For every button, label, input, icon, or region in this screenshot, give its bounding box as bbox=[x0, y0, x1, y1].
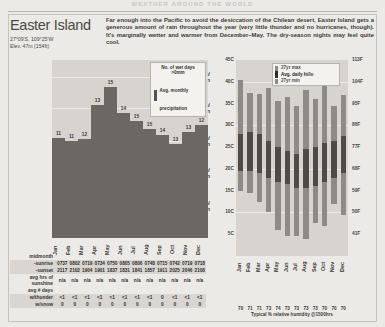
temp-column bbox=[285, 60, 290, 256]
humidity-value: 73 bbox=[292, 306, 301, 311]
wet-days-label: 12 bbox=[195, 118, 208, 123]
wet-days-label: 11 bbox=[65, 134, 78, 139]
sunrise-values: 0737080207190734075008050806074807150742… bbox=[56, 261, 206, 266]
sunrise-value: 0715 bbox=[156, 261, 169, 266]
precip-bar: 15 bbox=[143, 129, 156, 238]
precip-bar: 12 bbox=[78, 139, 91, 238]
temp-ytick-f-41: 41F bbox=[352, 231, 376, 236]
snow-value: 0 bbox=[169, 302, 182, 307]
precip-swatch-icon bbox=[154, 90, 157, 101]
temp-ytick-c-35: 35C bbox=[210, 101, 234, 106]
thunder-row: w/thunder <1<1<1<1<1<1<1<10<1<1<1 bbox=[10, 294, 206, 301]
location-elevation: Elev. 47m (154ft) bbox=[10, 43, 102, 50]
temp-avg-range-bar bbox=[238, 134, 243, 171]
temp-avg-range-bar bbox=[257, 134, 262, 173]
legend-avg-label: Avg. daily hi/lo bbox=[281, 72, 313, 78]
temp-ytick-f-113: 113F bbox=[352, 57, 376, 62]
sunshine-label-line2: sunshine bbox=[32, 281, 53, 286]
temp-avg-range-bar bbox=[313, 147, 318, 186]
sunshine-label: avg hrs of sunshine bbox=[10, 275, 56, 286]
temp-avg-range-bar bbox=[341, 136, 346, 173]
temp-column bbox=[247, 60, 252, 256]
wet-days-label: 12 bbox=[78, 132, 91, 137]
sunshine-label-line1: avg hrs of bbox=[30, 275, 53, 280]
sunrise-value: 0719 bbox=[181, 261, 194, 266]
temp-month-label: Aug bbox=[301, 256, 310, 278]
snow-value: 0 bbox=[144, 302, 157, 307]
humidity-values: 707171737473737373707070 bbox=[236, 306, 348, 311]
temp-month-label: Nov bbox=[329, 256, 338, 278]
sunset-value: 1841 bbox=[131, 268, 144, 273]
temp-column bbox=[266, 60, 271, 256]
temp-ytick-c-45: 45C bbox=[210, 57, 234, 62]
sunset-value: 1837 bbox=[106, 268, 119, 273]
location-identity: Easter Island 27°09'S, 109°25'W Elev. 47… bbox=[10, 18, 102, 49]
sunshine-row: avg hrs of sunshine n/an/an/an/an/an/an/… bbox=[10, 277, 206, 284]
precip-bar: 14 bbox=[117, 113, 130, 238]
snow-value: 0 bbox=[94, 302, 107, 307]
wet-days-label: 13 bbox=[182, 125, 195, 130]
temp-ytick-c-5: 5C bbox=[210, 231, 234, 236]
temp-month-label: Jan bbox=[236, 256, 245, 278]
precipitation-chart: 25mm/1in51mm/2in76mm/3in102mm/4in127mm/5… bbox=[10, 58, 210, 258]
temp-column bbox=[303, 60, 308, 256]
wet-days-label: 13 bbox=[169, 137, 182, 142]
temp-ytick-c-25: 25C bbox=[210, 144, 234, 149]
precip-bar: 15 bbox=[130, 121, 143, 238]
precip-bar: 12 bbox=[195, 125, 208, 238]
thunder-value: <1 bbox=[131, 295, 144, 300]
wet-days-label: 15 bbox=[130, 114, 143, 119]
humidity-value: 74 bbox=[273, 306, 282, 311]
legend-precip-line2: precipitation bbox=[160, 106, 188, 111]
sunshine-values: n/an/an/an/an/an/an/an/an/an/an/an/a bbox=[56, 278, 206, 283]
wet-days-label: 14 bbox=[156, 128, 169, 133]
precipitation-plot: 111112131514151514131312 No. of wet days… bbox=[52, 60, 208, 238]
humidity-value: 73 bbox=[264, 306, 273, 311]
sunshine-value: n/a bbox=[119, 278, 132, 283]
temp-month-label: Sep bbox=[311, 256, 320, 278]
legend-precip-text: Avg. monthly precipitation bbox=[160, 78, 189, 114]
sunset-value: 2117 bbox=[56, 268, 69, 273]
thunder-value: <1 bbox=[119, 295, 132, 300]
sunshine-value: n/a bbox=[131, 278, 144, 283]
sunrise-value: 0802 bbox=[69, 261, 82, 266]
legend-precip-line1: Avg. monthly bbox=[160, 88, 189, 93]
temp-month-label: Oct bbox=[320, 256, 329, 278]
thunder-value: <1 bbox=[181, 295, 194, 300]
snow-value: 0 bbox=[81, 302, 94, 307]
sunrise-value: 0718 bbox=[194, 261, 207, 266]
humidity-caption: Typical % relative humidity @1500hrs bbox=[230, 312, 354, 317]
temp-column bbox=[238, 60, 243, 256]
snow-row: w/snow 000000000000 bbox=[10, 301, 206, 308]
sunrise-value: 0719 bbox=[81, 261, 94, 266]
precip-bar: 13 bbox=[91, 105, 104, 239]
charts-area: 25mm/1in51mm/2in76mm/3in102mm/4in127mm/5… bbox=[10, 58, 376, 258]
weather-page: WEATHER AROUND THE WORLD Easter Island 2… bbox=[0, 0, 385, 327]
thunder-value: <1 bbox=[194, 295, 207, 300]
temp-ytick-c-20: 20C bbox=[210, 166, 234, 171]
thunder-value: <1 bbox=[144, 295, 157, 300]
page-title: Easter Island bbox=[10, 18, 102, 33]
snow-value: 0 bbox=[156, 302, 169, 307]
sunset-value: 1831 bbox=[119, 268, 132, 273]
temp-ytick-c-30: 30C bbox=[210, 122, 234, 127]
sunrise-value: 0737 bbox=[56, 261, 69, 266]
snow-values: 000000000000 bbox=[56, 302, 206, 307]
temp-column bbox=[294, 60, 299, 256]
sunset-label: -sunset bbox=[10, 268, 56, 274]
sunshine-value: n/a bbox=[194, 278, 207, 283]
wet-days-label: 14 bbox=[117, 106, 130, 111]
sunshine-value: n/a bbox=[181, 278, 194, 283]
sunshine-value: n/a bbox=[106, 278, 119, 283]
sunset-values: 2117210219041901183718311841185719112025… bbox=[56, 268, 206, 273]
temp-ytick-f-50: 50F bbox=[352, 209, 376, 214]
temperature-plot: 27yr max Avg. daily hi/lo 27yr min bbox=[236, 60, 348, 256]
thunder-value: <1 bbox=[106, 295, 119, 300]
thunder-value: 0 bbox=[156, 295, 169, 300]
sunrise-row: -sunrise 0737080207190734075008050806074… bbox=[10, 260, 206, 267]
sunset-value: 1911 bbox=[156, 268, 169, 273]
temp-avg-range-bar bbox=[331, 141, 336, 178]
snow-value: 0 bbox=[69, 302, 82, 307]
temp-ytick-f-86: 86F bbox=[352, 122, 376, 127]
wet-days-label: 15 bbox=[143, 122, 156, 127]
